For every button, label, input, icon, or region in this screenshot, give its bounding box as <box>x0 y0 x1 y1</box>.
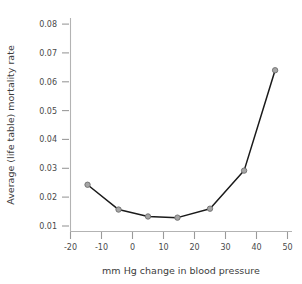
data-point <box>145 214 150 219</box>
x-axis-title: mm Hg change in blood pressure <box>102 265 260 276</box>
chart-figure: 0.08 0.07 0.06 0.05 0.04 0.03 0.02 0.01 … <box>0 0 302 284</box>
y-tick-label: 0.06 <box>39 78 57 87</box>
x-axis-ticks <box>71 232 288 239</box>
x-tick-label: -20 <box>64 243 77 252</box>
y-tick-label: 0.03 <box>39 164 57 173</box>
x-tick-label: 10 <box>158 243 168 252</box>
x-tick-label: -10 <box>95 243 108 252</box>
y-tick-label: 0.05 <box>39 107 57 116</box>
data-point <box>241 168 246 173</box>
x-axis-tick-labels: -20 -10 0 10 20 30 40 50 <box>64 243 293 252</box>
series-line <box>88 70 276 217</box>
data-series <box>85 68 278 221</box>
y-tick-label: 0.04 <box>39 135 57 144</box>
y-tick-label: 0.02 <box>39 193 57 202</box>
x-tick-label: 30 <box>220 243 230 252</box>
x-tick-label: 20 <box>189 243 199 252</box>
y-tick-label: 0.07 <box>39 49 57 58</box>
data-point <box>85 182 90 187</box>
line-chart-plot: 0.08 0.07 0.06 0.05 0.04 0.03 0.02 0.01 … <box>0 0 302 284</box>
data-point <box>175 215 180 220</box>
y-axis-tick-labels: 0.08 0.07 0.06 0.05 0.04 0.03 0.02 0.01 <box>39 20 57 231</box>
series-markers <box>85 68 278 221</box>
y-axis-ticks <box>62 24 69 226</box>
y-tick-label: 0.08 <box>39 20 57 29</box>
x-tick-label: 40 <box>251 243 261 252</box>
y-tick-label: 0.01 <box>39 222 57 231</box>
data-point <box>207 206 212 211</box>
data-point <box>272 68 277 73</box>
x-tick-label: 0 <box>130 243 135 252</box>
data-point <box>116 207 121 212</box>
x-tick-label: 50 <box>282 243 292 252</box>
y-axis-title: Average (life table) mortality rate <box>5 45 16 205</box>
